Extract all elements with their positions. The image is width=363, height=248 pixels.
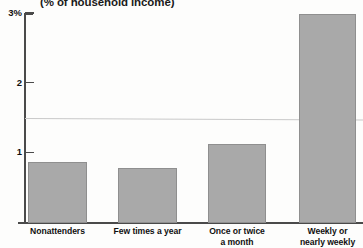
bar-chart: (% of household income) 123% Nonattender…	[0, 0, 363, 248]
x-axis-label-3: Weekly ornearly weekly	[273, 226, 363, 247]
bar[interactable]	[208, 144, 266, 223]
x-axis-labels: NonattendersFew times a yearOnce or twic…	[0, 226, 363, 248]
bar-group-1	[118, 1, 177, 223]
x-axis-label-line: nearly weekly	[273, 237, 363, 248]
bars-layer	[0, 0, 363, 223]
x-axis-label-line: Weekly or	[273, 226, 363, 237]
bar[interactable]	[28, 162, 87, 223]
bar-group-2	[208, 1, 266, 223]
bar[interactable]	[118, 168, 177, 223]
bar[interactable]	[299, 14, 356, 223]
bar-group-3	[299, 1, 356, 223]
bar-group-0	[28, 1, 87, 223]
